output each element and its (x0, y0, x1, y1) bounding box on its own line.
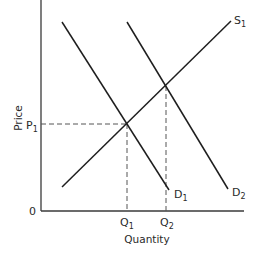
x-axis-label: Quantity (124, 233, 169, 245)
s1-label: S1 (234, 14, 246, 29)
origin-label: 0 (29, 205, 36, 218)
q1-label: Q1 (120, 216, 134, 231)
demand-curve-d1 (62, 22, 169, 190)
d1-label: D1 (174, 188, 188, 203)
y-axis-label: Price (12, 105, 24, 131)
supply-curve-s1 (62, 21, 231, 187)
q2-label: Q2 (160, 216, 174, 231)
demand-curve-d2 (127, 22, 228, 189)
supply-demand-diagram: Price P1 0 Q1 Q2 Quantity S1 D1 D2 (0, 0, 270, 256)
d2-label: D2 (232, 186, 246, 201)
p1-label: P1 (26, 119, 38, 134)
